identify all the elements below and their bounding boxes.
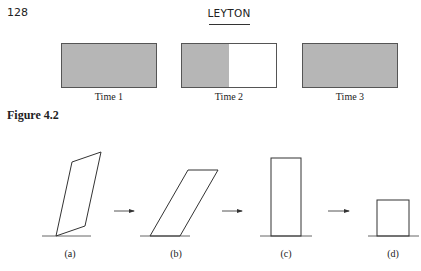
shape-d bbox=[368, 200, 419, 236]
running-head: LEYTON bbox=[207, 7, 251, 19]
shaded-region bbox=[303, 44, 397, 87]
page-number: 128 bbox=[7, 6, 28, 19]
time-label-3: Time 3 bbox=[302, 91, 398, 102]
tilted-parallelogram bbox=[56, 152, 101, 236]
sheared-parallelogram bbox=[150, 170, 218, 236]
shaded-region bbox=[182, 44, 229, 87]
shape-sequence-diagram bbox=[0, 140, 421, 245]
time-panel-1 bbox=[61, 43, 157, 88]
shape-c bbox=[260, 158, 312, 236]
shape-a bbox=[42, 152, 101, 236]
sub-label-c: (c) bbox=[280, 248, 291, 259]
time-label-2: Time 2 bbox=[181, 91, 277, 102]
time-panel-2 bbox=[181, 43, 277, 88]
running-head-underline bbox=[209, 24, 250, 25]
sub-label-b: (b) bbox=[170, 248, 182, 259]
tall-rectangle bbox=[271, 158, 301, 236]
sub-label-a: (a) bbox=[64, 248, 75, 259]
figure-caption: Figure 4.2 bbox=[7, 108, 59, 123]
square bbox=[377, 200, 409, 236]
sub-label-d: (d) bbox=[387, 248, 399, 259]
shaded-region bbox=[62, 44, 156, 87]
shape-b bbox=[140, 170, 218, 236]
time-label-1: Time 1 bbox=[61, 91, 157, 102]
time-panel-3 bbox=[302, 43, 398, 88]
